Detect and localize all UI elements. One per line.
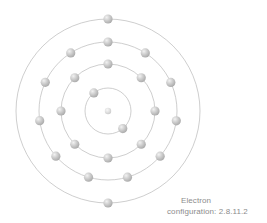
electron-shell2-3 xyxy=(56,106,65,115)
electron-shell2-2 xyxy=(70,73,79,82)
atom-diagram: Electron configuration: 2.8.11.2 xyxy=(0,0,267,223)
electron-shell2-7 xyxy=(150,106,159,115)
electron-shell1-1 xyxy=(89,88,98,97)
nucleus-icon xyxy=(105,108,111,114)
nucleus-group xyxy=(105,108,111,114)
electron-shell3-1 xyxy=(103,37,112,46)
bohr-model-canvas xyxy=(0,0,267,223)
electron-shell2-5 xyxy=(103,153,112,162)
electron-shell2-8 xyxy=(137,73,146,82)
electron-shell3-7 xyxy=(123,173,132,182)
electron-shell3-8 xyxy=(156,152,165,161)
electron-shell2-4 xyxy=(70,140,79,149)
electron-shell3-2 xyxy=(66,48,75,57)
electron-configuration-caption: Electron configuration: 2.8.11.2 xyxy=(167,195,262,217)
electron-shell3-11 xyxy=(141,48,150,57)
electron-shell3-3 xyxy=(41,78,50,87)
caption-line-two: configuration: 2.8.11.2 xyxy=(167,206,262,217)
electron-shell3-4 xyxy=(35,116,44,125)
electron-shell3-10 xyxy=(166,78,175,87)
electron-shell2-1 xyxy=(103,59,112,68)
electron-shell3-9 xyxy=(172,116,181,125)
electron-shell2-6 xyxy=(137,140,146,149)
electron-shell1-2 xyxy=(118,124,127,133)
electron-shell4-2 xyxy=(103,198,112,207)
electron-shell4-1 xyxy=(103,14,112,23)
electron-shell3-5 xyxy=(51,152,60,161)
caption-line-one: Electron xyxy=(167,195,262,206)
electron-shell3-6 xyxy=(84,173,93,182)
